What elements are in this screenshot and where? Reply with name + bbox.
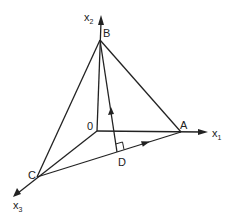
arrow-on-CA-icon bbox=[141, 141, 150, 147]
x2-axis bbox=[97, 22, 101, 131]
x2-arrowhead-icon bbox=[98, 15, 104, 25]
x1-axis-label: x1 bbox=[212, 127, 222, 141]
tetrahedron-diagram: x2 x1 x3 B A 0 C D bbox=[0, 0, 232, 221]
point-label-origin: 0 bbox=[87, 120, 93, 132]
point-label-B: B bbox=[103, 27, 110, 39]
x1-axis bbox=[97, 131, 202, 132]
x1-arrowhead-icon bbox=[198, 129, 208, 135]
edge-BC bbox=[37, 40, 100, 177]
x3-axis-label: x3 bbox=[13, 199, 23, 213]
edge-CA bbox=[37, 132, 181, 177]
point-label-C: C bbox=[28, 169, 36, 181]
point-label-A: A bbox=[180, 119, 188, 131]
point-label-D: D bbox=[118, 156, 126, 168]
x3-arrowhead-icon bbox=[13, 188, 21, 197]
x2-axis-label: x2 bbox=[84, 11, 94, 25]
arrow-on-DB-icon bbox=[108, 107, 114, 115]
